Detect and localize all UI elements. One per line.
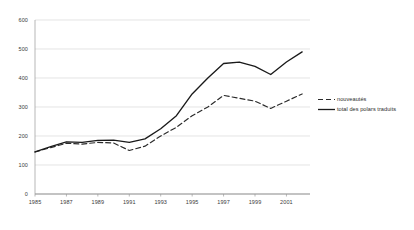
x-axis-ticks — [35, 194, 286, 197]
x-tick-label: 1987 — [54, 199, 78, 205]
legend-swatch-dashed-icon — [318, 96, 335, 103]
legend-item-nouveautes: nouveautés — [318, 95, 414, 104]
y-tick-label: 500 — [4, 46, 28, 52]
x-tick-label: 2001 — [274, 199, 298, 205]
y-tick-label: 0 — [4, 191, 28, 197]
y-tick-label: 300 — [4, 104, 28, 110]
legend-label-nouveautes: nouveautés — [337, 96, 366, 103]
y-tick-label: 600 — [4, 17, 28, 23]
series-line-1 — [35, 52, 302, 152]
legend-swatch-solid-icon — [318, 106, 335, 113]
legend-label-total: total des polars traduits — [337, 106, 396, 113]
x-tick-label: 1993 — [149, 199, 173, 205]
legend-item-total: total des polars traduits — [318, 105, 414, 114]
x-tick-label: 1991 — [117, 199, 141, 205]
x-tick-label: 1989 — [86, 199, 110, 205]
x-tick-label: 1999 — [243, 199, 267, 205]
y-tick-label: 200 — [4, 133, 28, 139]
x-tick-label: 1995 — [180, 199, 204, 205]
line-chart: 0100200300400500600 19851987198919911993… — [0, 0, 414, 230]
y-tick-label: 100 — [4, 162, 28, 168]
gridlines — [35, 20, 310, 194]
plot-area — [0, 0, 414, 230]
data-series-layer — [35, 52, 302, 152]
legend: nouveautés total des polars traduits — [318, 95, 414, 115]
x-tick-label: 1997 — [212, 199, 236, 205]
y-tick-label: 400 — [4, 75, 28, 81]
x-tick-label: 1985 — [23, 199, 47, 205]
